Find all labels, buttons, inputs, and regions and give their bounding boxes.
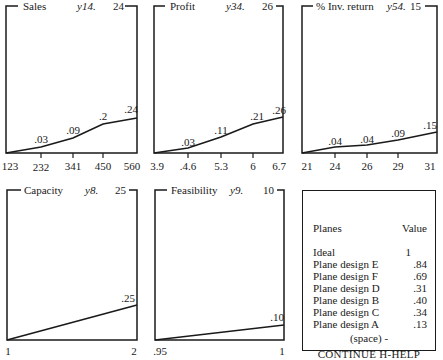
data-label: .15	[423, 120, 437, 131]
data-label: .03	[34, 134, 48, 145]
inv-return-chart: % Inv. return y54. 15 .04 .04 .09 .15 21…	[290, 0, 443, 175]
data-label: .04	[360, 134, 374, 145]
chart-title: % Inv. return	[315, 1, 375, 12]
feasibility-chart-frame	[145, 175, 295, 360]
plane-value: .69	[413, 270, 427, 282]
capacity-chart-frame	[0, 175, 145, 360]
header-value: Value	[402, 222, 427, 234]
table-row: Plane design B .40	[313, 294, 427, 306]
plane-value: .31	[413, 282, 427, 294]
footer-hint: (space) -	[303, 332, 435, 344]
chart-title: Sales	[22, 1, 47, 12]
planes-value-table: Planes Value Ideal 1 Plane design E .84 …	[302, 190, 436, 351]
sales-chart-frame	[0, 0, 145, 175]
table-row: Plane design F .69	[313, 270, 427, 282]
x-tick: 21	[302, 161, 313, 172]
chart-title: Feasibility	[170, 185, 218, 196]
chart-y-max: 25	[114, 185, 127, 196]
x-tick: 29	[393, 161, 404, 172]
plane-name: Plane design E	[313, 258, 378, 270]
inv-return-chart-frame	[290, 0, 443, 175]
data-label: .10	[270, 312, 284, 323]
chart-y-max: 10	[262, 185, 275, 196]
data-label: .11	[214, 125, 227, 136]
data-label: .09	[66, 125, 80, 136]
plane-value: .84	[413, 258, 427, 270]
x-tick: .95	[153, 346, 167, 357]
data-label: .04	[328, 136, 342, 147]
data-label: .26	[272, 105, 286, 116]
profit-chart-frame	[145, 0, 295, 175]
plane-name: Plane design D	[313, 282, 380, 294]
x-tick: 341	[65, 161, 82, 172]
x-tick: 560	[124, 161, 141, 172]
data-label: .21	[250, 111, 264, 122]
plane-name: Plane design C	[313, 306, 379, 318]
chart-y-max: 26	[261, 1, 274, 12]
data-label: .2	[99, 111, 107, 122]
data-label: .25	[121, 293, 135, 304]
plane-name: Plane design B	[313, 294, 379, 306]
table-row: Plane design A .13	[313, 318, 427, 330]
x-tick: 3.9	[150, 161, 164, 172]
x-tick: 1	[279, 346, 285, 357]
plane-name: Ideal	[313, 246, 335, 258]
plane-value: 1	[406, 246, 412, 258]
feasibility-chart: Feasibility y9. 10 .10 .95 1	[145, 175, 295, 360]
plane-name: Plane design A	[313, 318, 379, 330]
chart-y-label: y9.	[229, 185, 244, 196]
plane-value: .13	[413, 318, 427, 330]
plane-name: Plane design F	[313, 270, 378, 282]
data-label: .24	[124, 104, 138, 115]
chart-title: Profit	[169, 1, 196, 12]
table-row: Plane design E .84	[313, 258, 427, 270]
profit-chart: Profit y34. 26 .03 .11 .21 .26 3.9 .4.6 …	[145, 0, 295, 175]
x-tick: 26	[362, 161, 373, 172]
chart-y-label: y54.	[386, 1, 407, 12]
x-tick: 6.7	[272, 161, 286, 172]
x-tick: 450	[95, 161, 112, 172]
x-tick: 31	[425, 161, 436, 172]
table-row: Plane design D .31	[313, 282, 427, 294]
footer-commands[interactable]: CONTINUE H-HELP	[303, 348, 435, 360]
chart-y-max: 24	[112, 1, 125, 12]
x-tick: 6	[250, 161, 256, 172]
capacity-chart: Capacity y8. 25 .25 1 2	[0, 175, 145, 360]
x-tick: 5.3	[214, 161, 228, 172]
data-label: .03	[181, 137, 195, 148]
x-tick: 24	[330, 161, 341, 172]
chart-y-label: y14.	[76, 1, 97, 12]
x-tick: 2	[131, 346, 137, 357]
data-label: .09	[391, 128, 405, 139]
x-tick: 232	[33, 162, 50, 173]
plane-value: .34	[413, 306, 427, 318]
x-tick: 123	[2, 161, 19, 172]
chart-y-label: y8.	[84, 185, 99, 196]
chart-title: Capacity	[23, 185, 64, 196]
x-tick: 1	[5, 346, 11, 357]
plane-value: .40	[413, 294, 427, 306]
chart-y-max: 15	[409, 1, 422, 12]
x-tick: .4.6	[180, 161, 197, 172]
sales-chart: Sales y14. 24 .03 .09 .2 .24 123 232 341…	[0, 0, 145, 175]
table-row: Ideal 1	[313, 246, 427, 258]
table-header: Planes Value	[313, 222, 427, 234]
header-planes: Planes	[313, 222, 342, 234]
table-row: Plane design C .34	[313, 306, 427, 318]
chart-y-label: y34.	[225, 1, 246, 12]
